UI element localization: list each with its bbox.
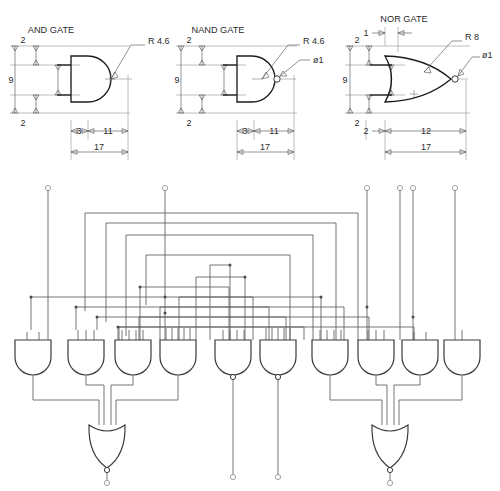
passthrough-terminal-1[interactable]: [230, 474, 235, 479]
nor-dim-body-height: 9: [342, 75, 347, 85]
nand-dim-lead-length: 3: [242, 126, 247, 136]
gate6-bubble-icon: [275, 374, 280, 379]
array-gate-6[interactable]: [260, 328, 296, 480]
routing-bus: [31, 213, 414, 340]
and-gate-title: AND GATE: [28, 25, 74, 35]
array-gate-8[interactable]: [358, 330, 394, 385]
nor-dim-top-offset: 2: [354, 35, 359, 45]
nor-dim-bottom-offset: 2: [354, 118, 359, 128]
nor-bubble-note: ø1: [482, 50, 493, 60]
array-gate-5[interactable]: [215, 330, 251, 480]
nor-dim-body-length: 12: [421, 126, 431, 136]
input-terminal-1[interactable]: [45, 185, 50, 190]
and-dim-overall: 17: [94, 142, 104, 152]
and-dim-lead-length: 3: [76, 126, 81, 136]
nor-output-bubble-icon: [452, 76, 458, 82]
nand-dim-body-height: 9: [174, 75, 179, 85]
drawing-sheet: AND GATE 2 9 2 3: [0, 0, 500, 491]
output-terminal-left[interactable]: [104, 480, 109, 485]
nand-dim-overall: 17: [260, 142, 270, 152]
passthrough-terminal-2[interactable]: [275, 474, 280, 479]
and-radius-note: R 4.6: [148, 36, 170, 46]
nand-gate-detail: NAND GATE 2 9 2 3 11 17: [174, 25, 324, 160]
right-output-routing: [330, 385, 462, 425]
gate-array-schematic: [15, 185, 480, 485]
nand-dim-body-length: 11: [269, 126, 278, 136]
array-gate-9[interactable]: [402, 332, 438, 385]
nand-gate-title: NAND GATE: [192, 25, 245, 35]
left-output-routing: [33, 385, 178, 425]
input-terminal-4[interactable]: [397, 185, 402, 190]
and-dim-body-height: 9: [8, 75, 13, 85]
and-gate-detail: AND GATE 2 9 2 3: [8, 25, 169, 160]
array-gate-10[interactable]: [444, 330, 480, 400]
and-dim-body-length: 11: [103, 126, 112, 136]
nor-gate-detail: NOR GATE 1 2 9 2: [342, 14, 492, 160]
nand-radius-note: R 4.6: [303, 36, 325, 46]
nor-radius-note: R 8: [465, 32, 479, 42]
nor-gate-title: NOR GATE: [380, 14, 427, 24]
nand-bubble-note: ø1: [313, 55, 324, 65]
nand-dim-top-offset: 2: [186, 35, 191, 45]
input-terminal-5[interactable]: [410, 185, 415, 190]
input-terminal-3[interactable]: [364, 185, 369, 190]
output-nor-right[interactable]: [372, 425, 408, 486]
array-gate-2[interactable]: [68, 330, 104, 385]
array-gate-1[interactable]: [15, 332, 51, 400]
array-gate-row: [15, 328, 480, 480]
input-terminal-6[interactable]: [452, 185, 457, 190]
nor-dim-top-gap: 1: [363, 28, 368, 38]
right-nor-bubble-icon: [387, 467, 392, 472]
output-nor-left[interactable]: [89, 425, 125, 486]
nand-dim-bottom-offset: 2: [186, 118, 191, 128]
left-nor-bubble-icon: [104, 467, 109, 472]
array-gate-7[interactable]: [312, 330, 348, 400]
nor-dim-lead-length: 2: [363, 126, 368, 136]
input-terminal-2[interactable]: [162, 185, 167, 190]
output-terminal-right[interactable]: [387, 480, 392, 485]
nand-output-bubble-icon: [274, 76, 280, 82]
drawing-canvas: AND GATE 2 9 2 3: [0, 0, 500, 491]
nor-dim-overall: 17: [421, 142, 431, 152]
array-gate-3[interactable]: [115, 330, 151, 385]
gate5-bubble-icon: [230, 374, 235, 379]
and-dim-bottom-offset: 2: [20, 118, 25, 128]
and-dim-top-offset: 2: [20, 35, 25, 45]
junction-dots: [30, 264, 415, 329]
